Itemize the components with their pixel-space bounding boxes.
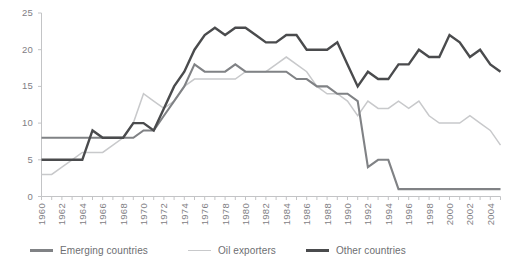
x-axis-tick-label: 2004	[485, 203, 496, 225]
x-axis-tick-label: 1976	[199, 203, 210, 225]
x-axis-tick-label: 2000	[444, 203, 455, 225]
chart-legend: Emerging countries Oil exporters Other c…	[30, 245, 406, 256]
x-axis-tick-label: 1988	[322, 203, 333, 225]
series-line	[42, 28, 501, 160]
x-axis-tick-label: 1966	[97, 203, 108, 225]
legend-swatch-emerging-countries	[30, 249, 53, 252]
x-axis-tick-label: 1986	[301, 203, 312, 225]
y-axis-tick-label: 25	[11, 7, 33, 18]
x-axis-tick-label: 1998	[424, 203, 435, 225]
x-axis-tick-label: 1970	[138, 203, 149, 225]
x-axis-tick-label: 1984	[281, 203, 292, 225]
legend-swatch-other-countries	[306, 249, 329, 252]
x-axis-tick-label: 1974	[179, 203, 190, 225]
y-axis-tick-label: 0	[11, 191, 33, 202]
y-axis-tick-label: 15	[11, 80, 33, 91]
x-axis-tick-label: 1964	[77, 203, 88, 225]
legend-label-emerging-countries: Emerging countries	[60, 245, 148, 256]
x-axis-tick-label: 1980	[240, 203, 251, 225]
legend-label-oil-exporters: Oil exporters	[218, 245, 276, 256]
y-axis-tick-label: 10	[11, 117, 33, 128]
x-axis-tick-label: 1972	[158, 203, 169, 225]
y-axis-tick-label: 20	[11, 44, 33, 55]
series-line	[42, 57, 501, 174]
x-axis-tick-label: 1992	[362, 203, 373, 225]
y-axis-tick-label: 5	[11, 154, 33, 165]
series-line	[42, 64, 501, 189]
x-axis-tick-label: 1982	[260, 203, 271, 225]
legend-item-other-countries: Other countries	[306, 245, 406, 256]
legend-item-emerging-countries: Emerging countries	[30, 245, 148, 256]
x-axis-tick-label: 1960	[36, 203, 47, 225]
x-axis-tick-label: 1990	[342, 203, 353, 225]
legend-item-oil-exporters: Oil exporters	[188, 245, 276, 256]
chart-figure: Emerging countries Oil exporters Other c…	[0, 0, 507, 272]
x-axis-tick-label: 1994	[383, 203, 394, 225]
x-axis-tick-label: 1968	[118, 203, 129, 225]
x-axis-tick-label: 2002	[464, 203, 475, 225]
x-axis-tick-label: 1996	[403, 203, 414, 225]
legend-swatch-oil-exporters	[188, 250, 211, 252]
x-axis-tick-label: 1978	[220, 203, 231, 225]
legend-label-other-countries: Other countries	[336, 245, 406, 256]
line-chart-plot	[0, 0, 507, 272]
x-axis-tick-label: 1962	[56, 203, 67, 225]
